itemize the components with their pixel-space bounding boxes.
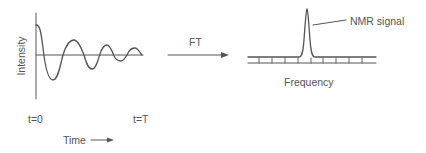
intensity-axis-label: Intensity: [15, 36, 27, 75]
time-arrow-head-icon: [107, 138, 114, 143]
nmr-signal-leader-line: [313, 20, 346, 25]
ft-label: FT: [189, 36, 202, 48]
time-end-label: t=T: [133, 113, 148, 125]
frequency-axis-ticks: [259, 58, 362, 63]
time-axis-label: Time: [63, 134, 86, 146]
nmr-signal-label: NMR signal: [350, 15, 404, 27]
frequency-axis-label: Frequency: [284, 76, 334, 88]
fid-decay-curve: [36, 25, 142, 80]
time-start-label: t=0: [28, 113, 43, 125]
ft-arrow-head-icon: [221, 52, 229, 58]
